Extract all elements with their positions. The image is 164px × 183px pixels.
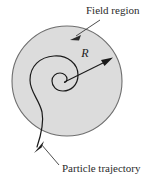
radius-label: R [80, 46, 89, 60]
particle-trajectory-leader-line [41, 144, 59, 165]
physics-figure: R Field region Particle trajectory [0, 0, 164, 183]
trajectory-arrowhead-icon [34, 141, 44, 153]
particle-trajectory-label: Particle trajectory [62, 162, 141, 174]
field-region-label: Field region [86, 4, 140, 16]
